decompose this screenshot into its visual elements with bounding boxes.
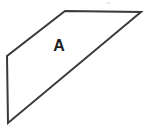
geometry-figure-canvas: A (0, 0, 144, 134)
geometry-figure-svg: A (0, 0, 144, 134)
scan-artifact-speck (107, 2, 110, 4)
shape-label-A: A (53, 37, 65, 54)
quadrilateral-shape-A (7, 11, 141, 123)
